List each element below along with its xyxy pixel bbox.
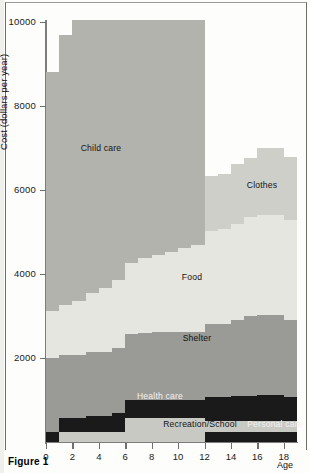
- x-tick-label-2: 2: [60, 451, 84, 462]
- series-label-health-care: Health care: [137, 391, 183, 401]
- y-tick-label-10000: 10000: [9, 16, 36, 27]
- figure-caption: Figure 1: [8, 456, 49, 467]
- x-tick-10: [178, 443, 179, 449]
- x-tick-label-10: 10: [166, 451, 190, 462]
- x-tick-16: [257, 443, 258, 449]
- x-tick-label-16: 16: [245, 451, 269, 462]
- x-tick-14: [231, 443, 232, 449]
- x-tick-label-12: 12: [193, 451, 217, 462]
- series-label-shelter: Shelter: [183, 333, 212, 343]
- x-tick-label-6: 6: [113, 451, 137, 462]
- x-tick-6: [125, 443, 126, 449]
- x-tick-0: [46, 443, 47, 449]
- stacked-area-plot: [46, 20, 297, 443]
- x-axis-title: Age: [277, 460, 293, 470]
- y-tick-label-8000: 8000: [14, 100, 36, 111]
- x-tick-12: [205, 443, 206, 449]
- series-label-recreation-school: Recreation/School: [163, 419, 237, 429]
- x-tick-label-4: 4: [87, 451, 111, 462]
- y-tick-label-6000: 6000: [14, 184, 36, 195]
- x-tick-2: [72, 443, 73, 449]
- chart-svg: [46, 20, 297, 443]
- x-tick-4: [99, 443, 100, 449]
- series-label-clothes: Clothes: [247, 180, 278, 190]
- series-label-child-care: Child care: [81, 143, 122, 153]
- y-axis-title: Cost (dollars per year): [0, 30, 9, 150]
- series-label-personal-care: Personal care: [247, 419, 303, 429]
- figure-page: Cost (dollars per year) 2000400060008000…: [0, 0, 309, 473]
- x-tick-label-14: 14: [219, 451, 243, 462]
- x-tick-8: [152, 443, 153, 449]
- x-tick-label-8: 8: [140, 451, 164, 462]
- series-label-food: Food: [182, 272, 202, 282]
- x-tick-18: [284, 443, 285, 449]
- y-tick-label-2000: 2000: [14, 352, 36, 363]
- y-tick-label-4000: 4000: [14, 268, 36, 279]
